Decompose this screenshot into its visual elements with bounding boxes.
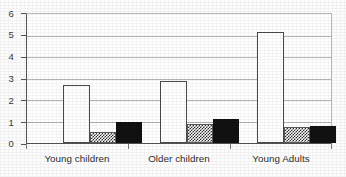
bar-young-children-white bbox=[63, 85, 90, 143]
x-category-label-older-children: Older children bbox=[128, 153, 230, 164]
y-tick-label-0: 0 bbox=[0, 139, 14, 148]
y-tick-label-2: 2 bbox=[0, 96, 14, 105]
gridline-3 bbox=[27, 79, 331, 80]
y-tick-label-4: 4 bbox=[0, 52, 14, 61]
bar-young-adults-hatched bbox=[284, 127, 310, 143]
bar-young-children-black bbox=[116, 122, 142, 144]
y-tick-label-3: 3 bbox=[0, 74, 14, 83]
bar-older-children-black bbox=[213, 119, 239, 143]
x-category-label-young-adults: Young Adults bbox=[230, 153, 332, 164]
gridline-5 bbox=[27, 36, 331, 37]
y-tick-label-6: 6 bbox=[0, 9, 14, 18]
plot-area bbox=[26, 13, 332, 144]
x-tick-mark-1 bbox=[128, 144, 129, 149]
bar-young-adults-black bbox=[310, 126, 336, 143]
y-tick-label-5: 5 bbox=[0, 30, 14, 39]
bar-older-children-hatched bbox=[187, 124, 213, 143]
bar-older-children-white bbox=[160, 81, 187, 143]
x-tick-mark-3 bbox=[331, 144, 332, 149]
gridline-4 bbox=[27, 57, 331, 58]
bar-young-children-hatched bbox=[90, 132, 116, 143]
x-tick-mark-0 bbox=[26, 144, 27, 149]
y-tick-label-1: 1 bbox=[0, 118, 14, 127]
x-category-label-young-children: Young children bbox=[26, 153, 128, 164]
bar-chart: 6 5 4 3 2 1 0 Young children Older chil bbox=[0, 0, 346, 177]
x-tick-mark-2 bbox=[230, 144, 231, 149]
bar-young-adults-white bbox=[257, 32, 284, 143]
